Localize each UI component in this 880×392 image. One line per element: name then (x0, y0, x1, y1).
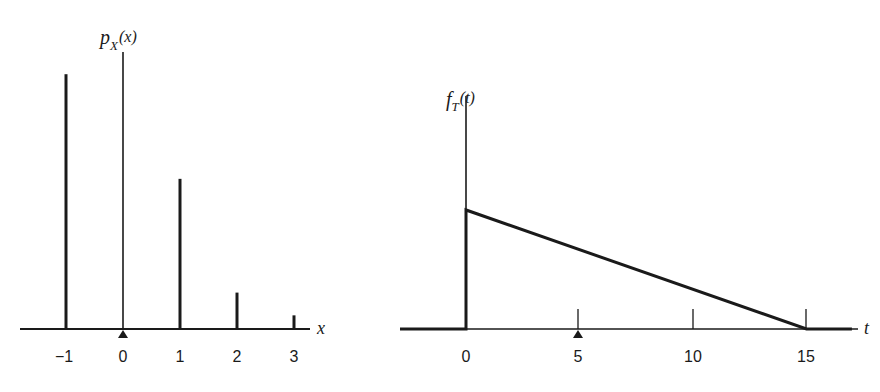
pdf-curve (400, 210, 852, 329)
pdf-plot-area: fT(t) t 0 5 10 15 (380, 0, 880, 392)
pmf-chart: pX(x) x −1 0 1 2 3 (0, 0, 340, 392)
tick-label: 3 (290, 348, 299, 365)
tick-label: 0 (462, 348, 471, 365)
pmf-ylabel: pX(x) (98, 26, 137, 53)
mean-marker-icon (573, 330, 583, 338)
tick-label: 0 (119, 348, 128, 365)
tick-label: 15 (797, 348, 815, 365)
pmf-plot-area: pX(x) x −1 0 1 2 3 (0, 0, 340, 392)
pmf-stems (66, 74, 294, 329)
mean-marker-icon (118, 330, 128, 338)
pmf-xlabel: x (316, 318, 325, 338)
pdf-chart: fT(t) t 0 5 10 15 (380, 0, 880, 392)
tick-label: 5 (574, 348, 583, 365)
tick-label: 10 (684, 348, 702, 365)
pdf-xlabel: t (864, 318, 870, 338)
pdf-ylabel: fT(t) (446, 88, 475, 114)
tick-label: −1 (55, 348, 73, 365)
tick-label: 1 (176, 348, 185, 365)
tick-label: 2 (233, 348, 242, 365)
